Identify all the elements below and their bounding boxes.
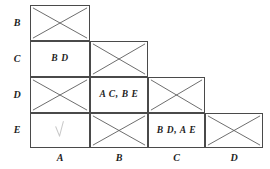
cross-out-icon (31, 78, 89, 112)
cell-D-C[interactable] (148, 77, 205, 113)
cell-C-B[interactable] (90, 41, 148, 77)
row-label-C: C (6, 54, 28, 64)
cross-out-icon (206, 114, 262, 147)
cross-out-icon (91, 114, 147, 147)
row-label-D: D (6, 90, 28, 100)
cell-C-A[interactable]: B D (30, 41, 90, 77)
col-label-A: A (30, 153, 90, 163)
col-label-C: C (148, 153, 205, 163)
row-label-E: E (6, 125, 28, 135)
row-label-B: B (6, 18, 28, 28)
cell-E-D[interactable] (205, 113, 263, 148)
check-mark-icon (31, 114, 89, 147)
matrix-figure: B D A C, B E (0, 0, 270, 169)
col-label-D: D (205, 153, 263, 163)
cell-label: A C, B E (99, 90, 138, 100)
cell-D-A[interactable] (30, 77, 90, 113)
cell-label: B D, A E (157, 126, 196, 136)
matrix-grid: B D A C, B E (30, 5, 263, 148)
cell-D-B[interactable]: A C, B E (90, 77, 148, 113)
cell-E-A[interactable] (30, 113, 90, 148)
cross-out-icon (31, 6, 89, 40)
cell-E-C[interactable]: B D, A E (148, 113, 205, 148)
col-label-B: B (90, 153, 148, 163)
cell-E-B[interactable] (90, 113, 148, 148)
cell-B-A[interactable] (30, 5, 90, 41)
cross-out-icon (91, 42, 147, 76)
cross-out-icon (149, 78, 204, 112)
cell-label: B D (51, 54, 68, 64)
